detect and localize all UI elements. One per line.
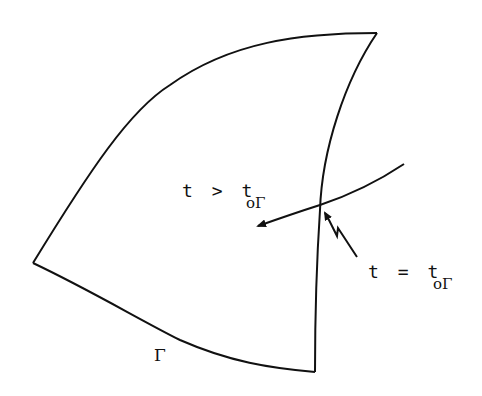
- crossing-var: t: [368, 261, 379, 282]
- svg-text:t = t: t = t: [368, 261, 438, 282]
- boundary-gamma-label: Γ: [154, 345, 166, 365]
- interior-op: >: [212, 180, 223, 201]
- crossing-pointer-arrow: [325, 213, 357, 257]
- crossing-op: =: [398, 261, 409, 282]
- diagram-canvas: t > t oΓ t = t oΓ Γ: [0, 0, 482, 396]
- interior-rhs-subscript: oΓ: [246, 194, 265, 212]
- characteristic-arrow: [258, 164, 404, 226]
- crossing-rhs-subscript: oΓ: [433, 275, 452, 293]
- boundary-lower-curve: [33, 263, 315, 372]
- svg-text:t > t: t > t: [182, 180, 252, 201]
- interior-var: t: [182, 180, 193, 201]
- crossing-condition-label: t = t oΓ: [368, 261, 452, 293]
- boundary-upper-curve: [33, 33, 377, 263]
- interior-condition-label: t > t oΓ: [182, 180, 265, 212]
